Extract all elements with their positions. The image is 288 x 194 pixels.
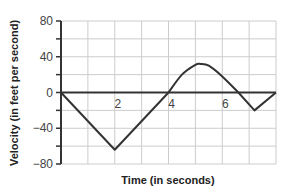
y-tick-label: −80 — [33, 157, 54, 171]
y-tick-label: −40 — [33, 121, 54, 135]
x-tick-label: 2 — [114, 97, 121, 111]
y-axis-ticks: 80400−40−80 — [33, 14, 61, 171]
x-tick-label: 4 — [168, 97, 175, 111]
velocity-time-chart: 80400−40−80 246 Time (in seconds) Veloci… — [0, 0, 288, 194]
x-axis-title: Time (in seconds) — [121, 174, 215, 186]
x-axis-ticks: 246 — [114, 97, 229, 111]
y-tick-label: 0 — [46, 86, 53, 100]
y-tick-label: 80 — [40, 14, 54, 28]
y-axis-title: Velocity (in feet per second) — [8, 20, 20, 166]
x-tick-label: 6 — [222, 97, 229, 111]
y-tick-label: 40 — [40, 50, 54, 64]
